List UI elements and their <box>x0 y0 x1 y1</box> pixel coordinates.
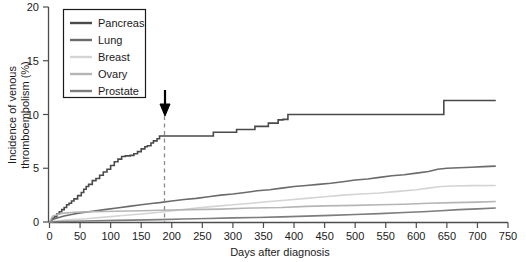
y-tick-label-20: 20 <box>27 1 39 13</box>
x-tick-label-200: 200 <box>163 230 181 242</box>
x-tick-label-300: 300 <box>224 230 242 242</box>
legend: PancreasLungBreastOvaryProstate <box>64 10 146 98</box>
x-tick-label-650: 650 <box>438 230 456 242</box>
x-tick-label-100: 100 <box>101 230 119 242</box>
y-axis-label-line2: thromboembolism (%) <box>19 61 31 169</box>
x-tick-label-50: 50 <box>74 230 86 242</box>
x-tick-label-700: 700 <box>468 230 486 242</box>
y-tick-label-0: 0 <box>33 216 39 228</box>
y-axis-label-line1: Incidence of venous <box>6 66 18 164</box>
x-tick-label-500: 500 <box>346 230 364 242</box>
x-tick-label-0: 0 <box>46 230 52 242</box>
x-axis-label: Days after diagnosis <box>230 246 330 258</box>
legend-label-lung: Lung <box>98 34 122 46</box>
chart-figure: 05101520 0501001502002503003504004505005… <box>0 0 526 262</box>
x-tick-label-450: 450 <box>315 230 333 242</box>
legend-label-pancreas: Pancreas <box>98 17 145 29</box>
x-tick-label-400: 400 <box>285 230 303 242</box>
marker-arrowhead-icon <box>160 104 170 116</box>
x-tick-label-600: 600 <box>407 230 425 242</box>
series-line-lung <box>50 166 496 222</box>
x-axis-ticks: 0501001502002503003504004505005506006507… <box>46 223 517 243</box>
series-group <box>50 101 496 222</box>
x-tick-label-750: 750 <box>499 230 517 242</box>
chart-canvas: 05101520 0501001502002503003504004505005… <box>0 0 526 262</box>
x-tick-label-550: 550 <box>377 230 395 242</box>
y-tick-label-5: 5 <box>33 162 39 174</box>
series-line-prostate <box>50 208 496 222</box>
x-tick-label-350: 350 <box>254 230 272 242</box>
legend-label-ovary: Ovary <box>98 68 128 80</box>
x-tick-label-250: 250 <box>193 230 211 242</box>
legend-label-breast: Breast <box>98 51 130 63</box>
x-tick-label-150: 150 <box>132 230 150 242</box>
legend-label-prostate: Prostate <box>98 85 139 97</box>
